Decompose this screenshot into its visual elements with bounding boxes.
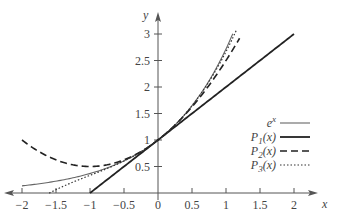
x-tick-label: 0	[155, 198, 161, 212]
x-tick-label: −0.5	[113, 198, 135, 212]
x-tick-label: 0.5	[185, 198, 200, 212]
x-tick-label: −2	[16, 198, 29, 212]
y-tick-label: 0.5	[135, 160, 150, 174]
y-tick-label: 1	[144, 133, 150, 147]
chart: xy −2−1.5−1−0.500.511.520.511.522.53 exP…	[0, 0, 342, 220]
x-tick-label: 2	[291, 198, 297, 212]
y-tick-label: 2.5	[135, 54, 150, 68]
y-tick-label: 3	[144, 27, 150, 41]
y-axis-title: y	[142, 8, 149, 22]
legend: exP1(x)P2(x)P3(x)	[250, 114, 310, 174]
ticks: −2−1.5−1−0.500.511.520.511.522.53	[16, 27, 297, 212]
y-tick-label: 1.5	[135, 107, 150, 121]
legend-label: ex	[267, 114, 276, 130]
legend-label: P3(x)	[250, 158, 276, 174]
axes: xy	[4, 8, 328, 211]
x-tick-label: −1.5	[45, 198, 67, 212]
x-tick-label: 1.5	[253, 198, 268, 212]
x-axis-title: x	[321, 197, 328, 211]
x-tick-label: 1	[223, 198, 229, 212]
y-tick-label: 2	[144, 80, 150, 94]
x-tick-label: −1	[84, 198, 97, 212]
